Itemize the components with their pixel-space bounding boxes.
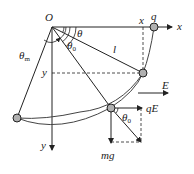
label-origin: O <box>45 12 53 23</box>
label-mg: mg <box>101 150 114 161</box>
ball-max <box>13 114 21 122</box>
label-field: E <box>162 80 169 91</box>
string-l <box>52 27 143 73</box>
label-y-coord: y <box>42 67 47 78</box>
label-x-coord: x <box>139 15 144 26</box>
label-length: l <box>113 44 116 55</box>
label-qE: qE <box>146 103 158 114</box>
ball-middle <box>139 69 147 77</box>
label-theta: θ <box>77 28 82 39</box>
ball-equilibrium <box>107 104 115 112</box>
string-equilibrium <box>52 27 111 108</box>
label-x-axis: x <box>177 21 182 32</box>
label-charge: q <box>151 11 157 22</box>
label-theta0: θ0 <box>67 40 76 53</box>
label-theta0-force: θ0 <box>122 112 131 125</box>
label-theta-m: θm <box>19 50 30 63</box>
label-y-axis: y <box>41 140 46 151</box>
ball-start <box>150 23 158 31</box>
